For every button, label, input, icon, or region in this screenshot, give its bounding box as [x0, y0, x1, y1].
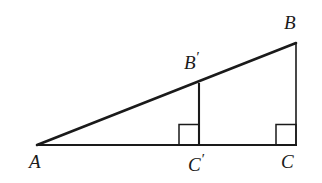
vertex-label-b: B: [284, 13, 296, 32]
vertex-label-a: A: [29, 152, 41, 171]
triangle-diagram-svg: [0, 0, 322, 183]
segment-hypotenuse-ab: [37, 43, 296, 145]
right-angle-mark-at-c: [276, 125, 296, 146]
vertex-label-b-prime: B′: [184, 50, 199, 72]
prime-mark-icon: ′: [201, 151, 204, 167]
vertex-label-c: C: [281, 152, 294, 171]
prime-mark-icon: ′: [196, 49, 199, 65]
geometry-figure: A B B′ C C′: [0, 0, 322, 183]
vertex-label-c-prime: C′: [188, 152, 204, 174]
vertex-label-c-prime-base: C: [188, 154, 201, 175]
vertex-label-b-prime-base: B: [184, 52, 196, 73]
right-angle-mark-at-c-prime: [179, 125, 199, 146]
